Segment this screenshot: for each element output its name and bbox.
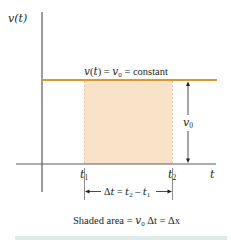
y-axis-label: v(t)	[8, 12, 27, 25]
delta-t-label: Δt = t2 – t1	[104, 186, 151, 199]
shaded-area	[84, 80, 172, 164]
arrowhead-right-icon	[168, 190, 173, 194]
caption: Shaded area = v0 Δt = Δx	[73, 214, 181, 228]
velocity-time-diagram: v(t) v(t) = v0 = constant v0 t1 t2 t Δt …	[0, 0, 231, 246]
bottom-divider-bar	[15, 236, 227, 240]
t1-label: t1	[80, 168, 88, 182]
arrowhead-down-icon	[186, 159, 190, 164]
constant-line-label: v(t) = v0 = constant	[84, 65, 168, 79]
arrowhead-up-icon	[186, 82, 190, 87]
arrowhead-left-icon	[85, 190, 90, 194]
t2-label: t2	[168, 168, 176, 182]
x-axis-label: t	[210, 168, 215, 181]
